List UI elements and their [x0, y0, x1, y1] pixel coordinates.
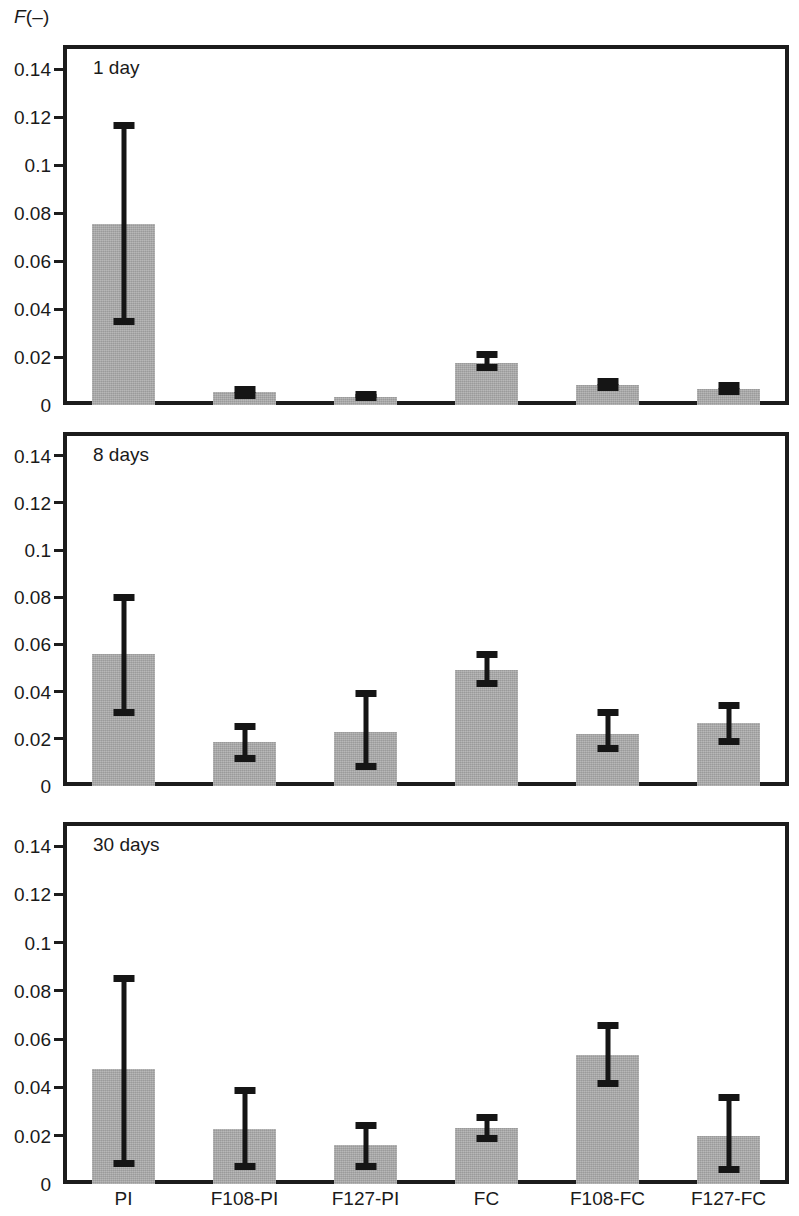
error-bar-cap-lower [597, 745, 618, 752]
panel-annotation: 8 days [93, 444, 149, 466]
error-bar-f108-fc [605, 1022, 610, 1087]
y-axis-tick [54, 893, 63, 896]
y-axis-tick-label: 0.02 [14, 348, 51, 367]
error-bar-f127-pi [363, 690, 368, 770]
y-axis-tick [54, 308, 63, 311]
y-axis-tick [54, 68, 63, 71]
y-axis-tick [54, 164, 63, 167]
y-axis-tick-label: 0.12 [14, 108, 51, 127]
chart-panel-30-days: 00.020.040.060.080.10.120.14 30 days [63, 822, 789, 1184]
error-bar-cap-upper [113, 594, 134, 601]
y-axis-tick-label: 0.12 [14, 885, 51, 904]
x-axis-label-row: PIF108-PIF127-PIFCF108-FCF127-FC [63, 1188, 789, 1214]
plot-area: 00.020.040.060.080.10.120.14 [63, 45, 789, 405]
x-axis-label-pi: PI [115, 1188, 133, 1210]
error-bar-cap-lower [355, 394, 376, 401]
y-axis-tick-label: 0.14 [14, 837, 51, 856]
y-axis-tick [54, 1134, 63, 1137]
y-axis-tick [54, 737, 63, 740]
y-axis-tick [54, 941, 63, 944]
bar-fc [455, 670, 518, 786]
x-axis-label-fc: FC [474, 1188, 499, 1210]
y-axis-tick [54, 260, 63, 263]
error-bar-cap-lower [234, 392, 255, 399]
y-axis-tick [54, 1038, 63, 1041]
y-axis-caption: F(–) [14, 6, 50, 28]
error-bar-cap-upper [113, 975, 134, 982]
error-bar-cap-upper [234, 1087, 255, 1094]
y-axis-tick [54, 845, 63, 848]
error-bar-cap-lower [718, 388, 739, 395]
y-axis-tick-label: 0 [40, 396, 51, 415]
y-axis-tick-label: 0.08 [14, 588, 51, 607]
error-bar-cap-lower [718, 1166, 739, 1173]
y-axis-tick-label: 0 [40, 777, 51, 796]
y-axis-tick-label: 0.12 [14, 493, 51, 512]
chart-panel-1-day: 00.020.040.060.080.10.120.14 1 day [63, 45, 789, 405]
y-axis-tick [54, 116, 63, 119]
error-bar-cap-lower [355, 763, 376, 770]
y-axis-tick [54, 549, 63, 552]
error-bar-cap-lower [476, 680, 497, 687]
y-axis-tick-label: 0.04 [14, 682, 51, 701]
chart-panel-8-days: 00.020.040.060.080.10.120.14 8 days [63, 432, 789, 786]
error-bar-cap-lower [234, 755, 255, 762]
y-axis-caption-unit: (–) [26, 6, 50, 27]
panel-annotation: 30 days [93, 834, 160, 856]
error-bar-cap-lower [597, 1080, 618, 1087]
error-bar-f127-fc [726, 1094, 731, 1174]
y-axis-tick [54, 596, 63, 599]
y-axis-tick-label: 0.14 [14, 446, 51, 465]
y-axis-tick-label: 0.04 [14, 300, 51, 319]
y-axis-tick-label: 0.06 [14, 252, 51, 271]
error-bar-cap-lower [476, 364, 497, 371]
error-bar-cap-upper [597, 709, 618, 716]
y-axis-tick-label: 0.08 [14, 204, 51, 223]
y-axis-tick-label: 0.08 [14, 981, 51, 1000]
y-axis-tick [54, 501, 63, 504]
error-bar-f108-pi [242, 1087, 247, 1170]
y-axis-tick-label: 0.02 [14, 1126, 51, 1145]
error-bar-pi [121, 975, 126, 1168]
y-axis-tick-label: 0.06 [14, 1030, 51, 1049]
error-bar-cap-upper [718, 1094, 739, 1101]
y-axis-tick-label: 0.1 [25, 156, 51, 175]
y-axis-tick [54, 212, 63, 215]
plot-area: 00.020.040.060.080.10.120.14 [63, 432, 789, 786]
x-axis-label-f127-fc: F127-FC [691, 1188, 766, 1210]
plot-area: 00.020.040.060.080.10.120.14 [63, 822, 789, 1184]
y-axis-tick [54, 1086, 63, 1089]
error-bar-cap-lower [113, 318, 134, 325]
y-axis-tick-label: 0.14 [14, 60, 51, 79]
error-bar-pi [121, 122, 126, 325]
error-bar-cap-upper [355, 1122, 376, 1129]
y-axis-tick [54, 989, 63, 992]
error-bar-cap-lower [597, 384, 618, 391]
error-bar-cap-lower [355, 1163, 376, 1170]
y-axis-tick-label: 0.1 [25, 541, 51, 560]
error-bar-cap-lower [113, 709, 134, 716]
y-axis-tick-label: 0.06 [14, 635, 51, 654]
error-bar-cap-lower [718, 738, 739, 745]
y-axis-tick [54, 356, 63, 359]
x-axis-label-f108-pi: F108-PI [211, 1188, 279, 1210]
y-axis-tick-label: 0.02 [14, 729, 51, 748]
x-axis-label-f127-pi: F127-PI [332, 1188, 400, 1210]
y-axis-tick-label: 0.04 [14, 1078, 51, 1097]
y-axis-tick-label: 0 [40, 1175, 51, 1194]
x-axis-label-f108-fc: F108-FC [570, 1188, 645, 1210]
error-bar-cap-upper [476, 351, 497, 358]
error-bar-cap-upper [355, 690, 376, 697]
error-bar-cap-upper [476, 651, 497, 658]
y-axis-tick [54, 690, 63, 693]
error-bar-cap-upper [113, 122, 134, 129]
error-bar-cap-lower [234, 1163, 255, 1170]
error-bar-cap-upper [234, 723, 255, 730]
error-bar-cap-lower [113, 1160, 134, 1167]
y-axis-caption-symbol: F [14, 6, 26, 27]
y-axis-tick [54, 643, 63, 646]
y-axis-tick [54, 454, 63, 457]
error-bar-cap-upper [597, 1022, 618, 1029]
panel-annotation: 1 day [93, 57, 139, 79]
error-bar-cap-upper [718, 702, 739, 709]
